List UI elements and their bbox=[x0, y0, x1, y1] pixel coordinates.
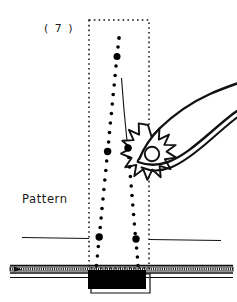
pattern-rule-left bbox=[22, 238, 89, 239]
solid-base-block bbox=[88, 270, 146, 289]
left-basting-stitch-line bbox=[95, 36, 121, 267]
pattern-rule-right bbox=[149, 240, 221, 241]
step-number-label: ( 7 ) bbox=[44, 22, 74, 35]
illustration-canvas: ( 7 ) Pattern bbox=[0, 0, 237, 302]
pattern-text-label: Pattern bbox=[22, 192, 68, 206]
awl-knob-icon bbox=[145, 147, 159, 161]
hand-holding-awl bbox=[121, 84, 237, 180]
figure-artwork bbox=[0, 0, 237, 302]
thread-tail-line bbox=[122, 78, 128, 146]
